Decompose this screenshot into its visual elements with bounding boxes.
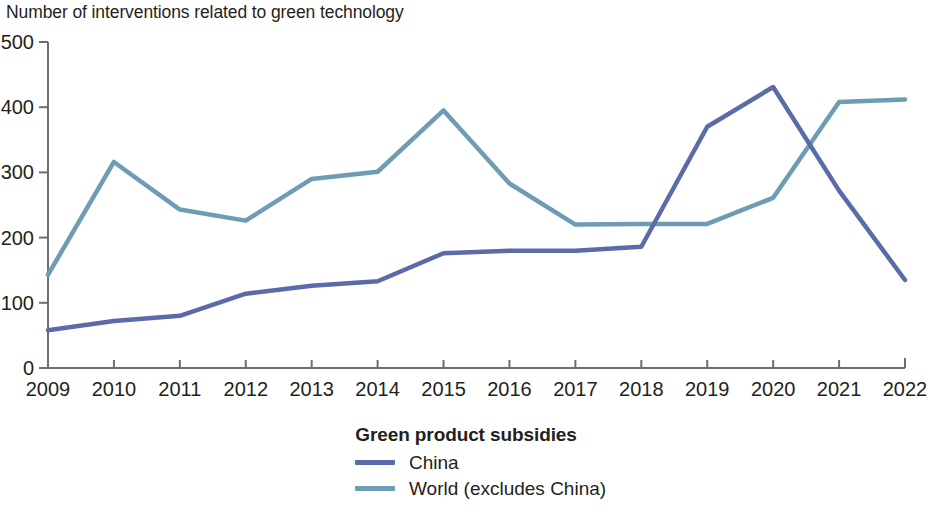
y-axis-tick-label: 400 [0,96,34,119]
y-axis-tick-label: 200 [0,226,34,249]
x-axis-tick-label: 2010 [92,378,137,401]
legend-item-china: China [0,453,932,472]
legend-label-world: World (excludes China) [409,479,606,498]
plot-area: 0100200300400500 20092010201120122013201… [0,0,932,420]
green-technology-line-chart: Number of interventions related to green… [0,0,932,516]
legend-label-china: China [409,453,459,472]
x-axis-tick-label: 2020 [751,378,796,401]
y-axis-tick-label: 100 [0,291,34,314]
x-axis-tick-label: 2019 [685,378,730,401]
x-axis-tick-label: 2018 [619,378,664,401]
x-axis-tick-label: 2017 [553,378,598,401]
y-axis-tick-label: 300 [0,161,34,184]
x-axis-ticks [48,360,905,368]
legend-title: Green product subsidies [0,424,932,446]
y-axis-ticks [39,42,48,368]
y-axis-tick-label: 500 [0,31,34,54]
x-axis-tick-label: 2011 [158,378,201,401]
data-series-group [48,87,905,330]
legend-item-world: World (excludes China) [0,479,932,498]
chart-legend: Green product subsidies China World (exc… [0,424,932,498]
legend-swatch-world [355,486,395,491]
x-axis-tick-label: 2009 [26,378,71,401]
legend-swatch-china [355,460,395,465]
x-axis-tick-label: 2014 [355,378,400,401]
x-axis-tick-label: 2013 [289,378,334,401]
x-axis-tick-label: 2016 [487,378,532,401]
plot-svg [0,0,932,420]
x-axis-tick-label: 2015 [421,378,466,401]
series-line-world-excludes-china [48,99,905,274]
x-axis-tick-label: 2012 [224,378,269,401]
x-axis-tick-label: 2022 [883,378,928,401]
x-axis-tick-label: 2021 [817,378,862,401]
y-axis-tick-label: 0 [0,357,34,380]
